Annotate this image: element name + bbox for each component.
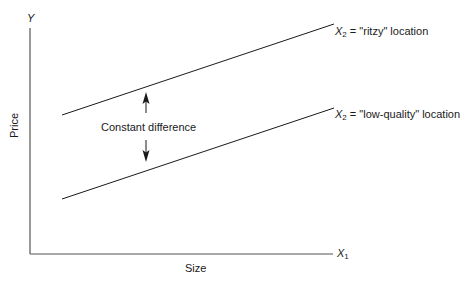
ritzy-location-line	[62, 24, 334, 115]
low-quality-location-label: X2 = "low-quality" location	[335, 109, 460, 122]
constant-difference-annotation: Constant difference	[101, 122, 196, 133]
y-axis-symbol: Y	[27, 13, 34, 24]
ritzy-location-label: X2 = "ritzy" location	[335, 26, 428, 39]
up-arrow-icon	[143, 92, 150, 113]
down-arrow-icon	[143, 140, 150, 162]
x-axis-symbol: X1	[337, 248, 349, 261]
x-axis-symbol-sub: 1	[344, 252, 348, 261]
x-axis-label: Size	[185, 263, 206, 274]
low-quality-label-text: = "low-quality" location	[347, 108, 460, 120]
ritzy-label-text: = "ritzy" location	[347, 25, 428, 37]
y-axis-label: Price	[9, 113, 20, 138]
